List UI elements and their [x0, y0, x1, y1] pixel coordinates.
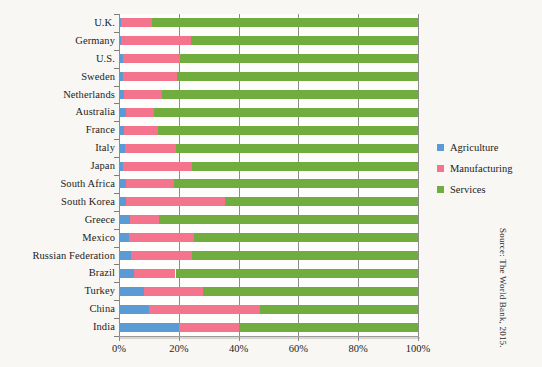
baseline-shadow	[120, 337, 420, 339]
category-label: Netherlands	[3, 89, 115, 100]
source-note: Source: The World Bank, 2015.	[498, 228, 508, 348]
category-label: Sweden	[3, 71, 115, 82]
bar-segment-manufacturing	[131, 251, 192, 260]
category-tick	[114, 318, 119, 319]
bar-segment-services	[180, 54, 418, 63]
category-label: U.S.	[3, 53, 115, 64]
category-tick	[114, 121, 119, 122]
x-tick-label: 20%	[156, 343, 202, 354]
bar-segment-agriculture	[119, 323, 179, 332]
bar-segment-manufacturing	[123, 54, 181, 63]
legend-item-agriculture[interactable]: Agriculture	[437, 137, 537, 158]
bar-row	[119, 18, 418, 27]
category-tick	[114, 211, 119, 212]
category-label: Japan	[3, 160, 115, 171]
x-axis-line	[119, 336, 419, 337]
plot-area	[119, 14, 418, 336]
bar-row	[119, 72, 418, 81]
category-tick	[114, 14, 119, 15]
category-tick	[114, 50, 119, 51]
category-label: Italy	[3, 142, 115, 153]
legend-label: Manufacturing	[450, 163, 512, 174]
bar-segment-services	[191, 36, 418, 45]
x-tick-label: 80%	[335, 343, 381, 354]
bar-segment-agriculture	[119, 305, 149, 314]
bar-segment-services	[158, 126, 418, 135]
bar-segment-agriculture	[119, 197, 126, 206]
category-axis-labels: U.K.GermanyU.S.SwedenNetherlandsAustrali…	[0, 14, 115, 336]
x-tick-label: 0%	[96, 343, 142, 354]
bar-row	[119, 323, 418, 332]
category-tick	[114, 68, 119, 69]
bar-row	[119, 126, 418, 135]
bar-row	[119, 305, 418, 314]
category-tick	[114, 175, 119, 176]
category-tick	[114, 229, 119, 230]
chart-legend: AgricultureManufacturingServices	[437, 137, 537, 200]
category-label: South Africa	[3, 178, 115, 189]
bar-row	[119, 233, 418, 242]
bar-segment-manufacturing	[179, 323, 239, 332]
bar-segment-services	[203, 287, 418, 296]
bar-segment-agriculture	[119, 215, 130, 224]
bar-segment-services	[192, 162, 418, 171]
bar-row	[119, 108, 418, 117]
legend-item-manufacturing[interactable]: Manufacturing	[437, 158, 537, 179]
bar-segment-services	[162, 90, 418, 99]
x-tick-mark	[239, 337, 240, 341]
bar-row	[119, 179, 418, 188]
bar-row	[119, 269, 418, 278]
category-label: Russian Federation	[3, 250, 115, 261]
bar-segment-manufacturing	[123, 162, 193, 171]
bar-segment-services	[174, 179, 418, 188]
legend-swatch-services	[437, 186, 444, 193]
bar-segment-manufacturing	[126, 179, 174, 188]
bar-segment-manufacturing	[144, 287, 202, 296]
gridline-100pct	[418, 14, 419, 336]
bar-rows	[119, 14, 418, 336]
category-label: Greece	[3, 214, 115, 225]
bar-row	[119, 287, 418, 296]
category-tick	[114, 86, 119, 87]
legend-swatch-manufacturing	[437, 165, 444, 172]
category-tick	[114, 193, 119, 194]
bar-segment-services	[225, 197, 418, 206]
x-tick-label: 60%	[275, 343, 321, 354]
legend-label: Services	[450, 184, 486, 195]
category-label: Turkey	[3, 285, 115, 296]
category-label: China	[3, 303, 115, 314]
bar-segment-services	[176, 144, 418, 153]
bar-segment-services	[152, 18, 418, 27]
bar-segment-manufacturing	[125, 144, 176, 153]
bar-segment-manufacturing	[134, 269, 176, 278]
bar-row	[119, 90, 418, 99]
category-label: U.K.	[3, 17, 115, 28]
category-tick	[114, 247, 119, 248]
category-label: France	[3, 124, 115, 135]
bar-row	[119, 197, 418, 206]
chart-figure: U.K.GermanyU.S.SwedenNetherlandsAustrali…	[0, 0, 542, 367]
category-label: Germany	[3, 35, 115, 46]
category-tick	[114, 103, 119, 104]
bar-segment-services	[192, 251, 418, 260]
bar-row	[119, 54, 418, 63]
x-tick-label: 100%	[395, 343, 441, 354]
category-tick	[114, 32, 119, 33]
bar-row	[119, 36, 418, 45]
bar-segment-manufacturing	[121, 36, 191, 45]
category-tick	[114, 300, 119, 301]
bar-segment-manufacturing	[149, 305, 260, 314]
bar-segment-manufacturing	[129, 233, 193, 242]
bar-segment-manufacturing	[126, 108, 154, 117]
bar-row	[119, 215, 418, 224]
bar-segment-services	[194, 233, 418, 242]
bar-segment-agriculture	[119, 251, 131, 260]
bar-segment-services	[159, 215, 418, 224]
bar-segment-manufacturing	[126, 197, 225, 206]
bar-segment-agriculture	[119, 269, 134, 278]
category-tick	[114, 139, 119, 140]
legend-item-services[interactable]: Services	[437, 179, 537, 200]
category-tick	[114, 282, 119, 283]
bar-segment-agriculture	[119, 108, 126, 117]
bar-segment-agriculture	[119, 233, 129, 242]
